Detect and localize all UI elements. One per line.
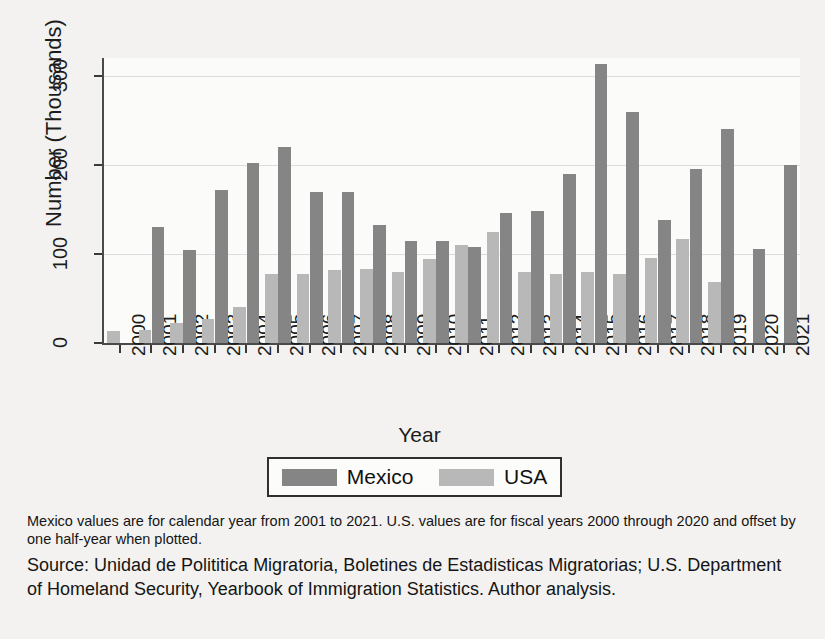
x-tick-mark — [245, 345, 247, 353]
bar-usa-2000 — [107, 331, 120, 343]
bar-mexico-2019 — [721, 129, 734, 343]
x-tick-mark — [783, 345, 785, 353]
bar-mexico-2020 — [753, 249, 766, 343]
bar-mexico-2003 — [215, 190, 228, 343]
chart-footnote: Mexico values are for calendar year from… — [27, 512, 797, 548]
bar-usa-2014 — [550, 274, 563, 343]
bar-usa-2016 — [613, 274, 626, 343]
legend-swatch-icon — [282, 469, 337, 486]
x-tick-mark — [720, 345, 722, 353]
x-tick-mark — [688, 345, 690, 353]
bar-usa-2005 — [265, 274, 278, 343]
bar-usa-2003 — [202, 319, 215, 343]
chart-plot: 0100200300200020012002200320042005200620… — [0, 0, 825, 460]
x-tick-mark — [182, 345, 184, 353]
bar-usa-2004 — [233, 307, 246, 343]
legend-swatch-icon — [439, 469, 494, 486]
x-tick-mark — [214, 345, 216, 353]
x-tick-mark — [530, 345, 532, 353]
x-tick-mark — [404, 345, 406, 353]
bar-mexico-2004 — [247, 163, 260, 343]
bar-mexico-2010 — [436, 241, 449, 343]
bar-usa-2010 — [423, 259, 436, 343]
bar-usa-2001 — [139, 330, 152, 343]
x-tick-mark — [467, 345, 469, 353]
x-tick-mark — [150, 345, 152, 353]
legend-label: USA — [504, 465, 547, 489]
bar-usa-2013 — [518, 272, 531, 343]
x-tick-mark — [498, 345, 500, 353]
bar-mexico-2018 — [690, 169, 703, 343]
bar-usa-2008 — [360, 269, 373, 343]
bar-mexico-2017 — [658, 220, 671, 343]
bar-mexico-2009 — [405, 241, 418, 343]
bar-mexico-2002 — [183, 250, 196, 343]
x-axis-title: Year — [7, 423, 825, 447]
x-tick-mark — [435, 345, 437, 353]
x-tick-mark — [562, 345, 564, 353]
x-tick-mark — [625, 345, 627, 353]
bar-usa-2011 — [455, 245, 468, 343]
figure: 0100200300200020012002200320042005200620… — [0, 0, 825, 639]
y-axis-title: Number (Thousands) — [41, 0, 67, 273]
y-gridline — [104, 76, 800, 77]
bar-mexico-2011 — [468, 247, 481, 343]
y-tick-label: 0 — [49, 313, 72, 373]
bar-mexico-2005 — [278, 147, 291, 343]
bar-mexico-2008 — [373, 225, 386, 343]
bar-usa-2002 — [170, 323, 183, 343]
legend-label: Mexico — [347, 465, 414, 489]
bar-usa-2009 — [392, 272, 405, 343]
bar-mexico-2021 — [784, 165, 797, 343]
bar-mexico-2014 — [563, 174, 576, 343]
bar-mexico-2016 — [626, 112, 639, 343]
bar-mexico-2015 — [595, 64, 608, 343]
bar-usa-2019 — [708, 282, 721, 343]
bar-mexico-2001 — [152, 227, 165, 343]
y-axis-line — [102, 58, 104, 345]
bar-mexico-2013 — [531, 211, 544, 343]
bar-mexico-2007 — [342, 192, 355, 343]
chart-source-note: Source: Unidad de Polititica Migratoria,… — [27, 554, 797, 601]
chart-legend: MexicoUSA — [267, 457, 562, 497]
x-tick-mark — [593, 345, 595, 353]
x-tick-mark — [657, 345, 659, 353]
legend-entry-usa: USA — [439, 465, 547, 489]
x-tick-mark — [372, 345, 374, 353]
x-tick-mark — [752, 345, 754, 353]
bar-usa-2018 — [676, 239, 689, 343]
y-gridline — [104, 165, 800, 166]
bar-usa-2012 — [487, 232, 500, 343]
x-tick-mark — [119, 345, 121, 353]
bar-usa-2015 — [581, 272, 594, 343]
bar-usa-2007 — [328, 270, 341, 343]
bar-usa-2017 — [645, 258, 658, 343]
x-tick-mark — [340, 345, 342, 353]
bar-mexico-2012 — [500, 213, 513, 343]
legend-entry-mexico: Mexico — [282, 465, 414, 489]
bar-usa-2006 — [297, 274, 310, 343]
x-tick-mark — [277, 345, 279, 353]
bar-mexico-2006 — [310, 192, 323, 343]
x-tick-mark — [309, 345, 311, 353]
